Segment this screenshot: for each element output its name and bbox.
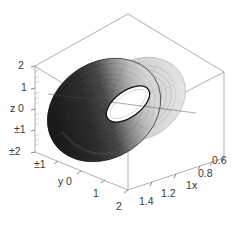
torus-surface [28,37,202,183]
x-tick-label-1_2: 1.2 [161,188,176,199]
z-tick-neg2 [31,152,35,153]
z-tick-label-1: 1 [21,82,27,93]
z-tick-neg1 [31,130,35,131]
y-tick-label-neg1: ±1 [34,159,46,170]
y-axis-label: y [58,176,63,187]
z-tick-label-2: 2 [18,60,24,71]
y-tick-label-2: 2 [116,201,122,212]
y-tick-2 [124,190,128,193]
x-tick-label-0_6: 0.6 [212,155,227,166]
y-tick-0 [77,171,81,174]
x-tick-label-1_4: 1.4 [139,196,154,207]
x-tick-label-0_8: 0.8 [198,168,213,179]
torus-surface-plot-figure: 2 1 z 0 ±1 ±2 ±1 y 0 1 2 1.4 1.2 1 x 0.8… [0,0,243,226]
y-tick-1 [101,180,105,183]
z-tick-label-neg1: ±1 [14,124,26,135]
z-axis-label: z [10,103,15,114]
x-axis-label: x [192,180,197,191]
z-tick-label-0: 0 [18,103,24,114]
y-tick-label-1: 1 [93,188,99,199]
z-tick-0 [31,109,35,110]
y-tick-neg1 [54,161,58,164]
z-tick-label-neg2: ±2 [9,146,21,157]
z-tick-2 [31,66,35,67]
z-axis-ticks [31,66,35,153]
plot-canvas [0,0,243,226]
z-tick-1 [31,88,35,89]
z-axis-minor-ticks [35,70,39,146]
y-tick-label-0: 0 [66,176,72,187]
x-tick-label-1: 1 [186,180,192,191]
